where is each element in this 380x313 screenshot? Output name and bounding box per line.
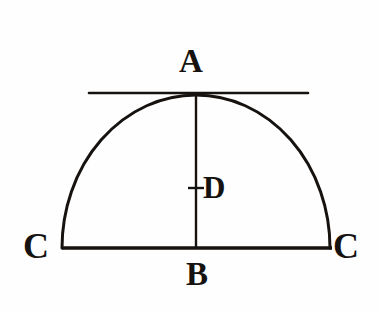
point-label-c-right: C [333,228,359,264]
point-label-b: B [186,258,208,291]
point-label-c-left: C [23,228,49,264]
point-label-d: D [203,172,225,203]
geometry-figure: A D B C C [0,0,380,313]
point-label-a: A [179,45,203,78]
